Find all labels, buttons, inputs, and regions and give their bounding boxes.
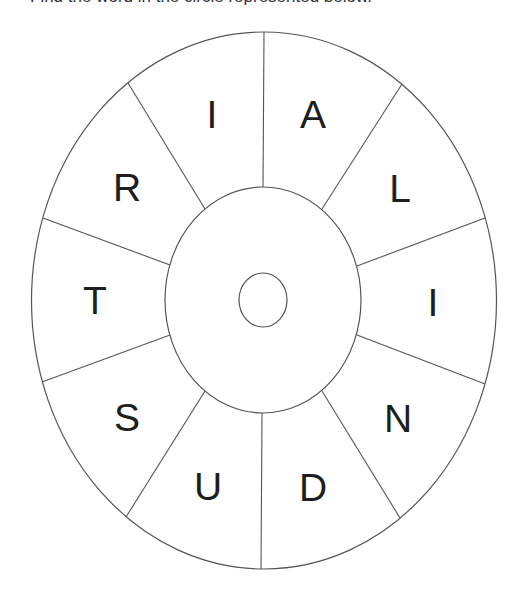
segment-letter: I [207, 93, 218, 136]
segment-letter: N [384, 397, 412, 440]
segment-letter: A [300, 93, 326, 136]
segment-letter: D [299, 466, 327, 509]
segment-letter: S [114, 396, 140, 439]
segment-letter: L [389, 167, 411, 210]
segment-letters: A L I N D U S T R I [83, 93, 438, 509]
spokes [42, 32, 485, 569]
letter-wheel: A L I N D U S T R I [0, 0, 519, 596]
spoke-left-lower [42, 335, 170, 382]
inner-ring [165, 187, 361, 413]
hub-circle [239, 273, 287, 327]
segment-letter: T [83, 279, 107, 322]
spoke-right-lower [357, 335, 485, 384]
spoke-right-upper [357, 218, 485, 266]
spoke-bottom [261, 413, 262, 569]
spoke-left-upper [43, 218, 170, 265]
segment-letter: I [428, 281, 439, 324]
segment-letter: R [113, 166, 141, 209]
segment-letter: U [194, 465, 222, 508]
spoke-top [263, 32, 264, 187]
